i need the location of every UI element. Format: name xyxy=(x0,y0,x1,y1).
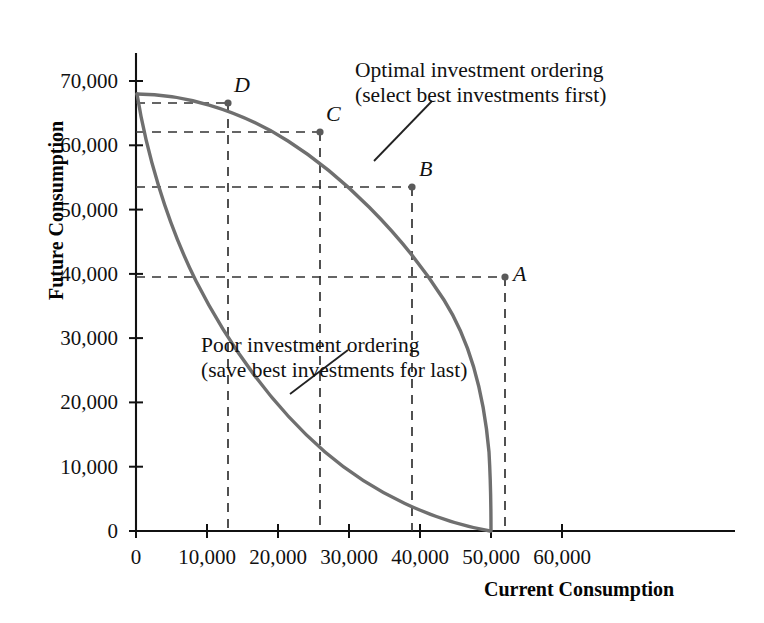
annotation-optimal-line2: (select best investments first) xyxy=(355,83,606,108)
curve-optimal-investment-ordering xyxy=(137,94,491,531)
x-tick-label-0: 0 xyxy=(131,545,142,570)
x-axis-title: Current Consumption xyxy=(484,578,674,601)
y-tick-label-30000: 30,000 xyxy=(14,326,118,351)
x-tick-label-10000: 10,000 xyxy=(178,545,236,570)
axis-lines xyxy=(136,53,735,531)
annotation-poor-line2: (save best investments for last) xyxy=(201,358,467,383)
data-point-label-D: D xyxy=(234,72,250,98)
annotation-poor-investment-ordering: Poor investment ordering (save best inve… xyxy=(201,333,467,384)
chart-figure: 0 10,000 20,000 30,000 40,000 50,000 60,… xyxy=(0,0,764,623)
x-tick-label-40000: 40,000 xyxy=(391,545,449,570)
annotation-optimal-line1: Optimal investment ordering xyxy=(355,58,603,82)
y-tick-label-70000: 70,000 xyxy=(14,69,118,94)
data-point-B[interactable] xyxy=(408,183,415,190)
y-tick-label-0: 0 xyxy=(14,519,118,544)
data-point-markers xyxy=(224,99,508,280)
x-tick-label-60000: 60,000 xyxy=(533,545,591,570)
leader-line-optimal xyxy=(374,101,432,161)
data-point-C[interactable] xyxy=(316,128,323,135)
annotation-optimal-investment-ordering: Optimal investment ordering (select best… xyxy=(355,58,606,109)
x-tick-label-50000: 50,000 xyxy=(462,545,520,570)
x-tick-label-20000: 20,000 xyxy=(249,545,307,570)
data-point-label-B: B xyxy=(419,156,432,182)
data-point-A[interactable] xyxy=(501,273,508,280)
guide-lines xyxy=(136,103,505,531)
y-tick-label-20000: 20,000 xyxy=(14,390,118,415)
annotation-poor-line1: Poor investment ordering xyxy=(201,333,420,357)
data-point-D[interactable] xyxy=(224,99,231,106)
y-axis-title: Future Consumption xyxy=(45,121,68,300)
x-tick-label-30000: 30,000 xyxy=(320,545,378,570)
data-point-label-C: C xyxy=(326,101,341,127)
data-point-label-A: A xyxy=(513,261,526,287)
y-tick-label-10000: 10,000 xyxy=(14,454,118,479)
